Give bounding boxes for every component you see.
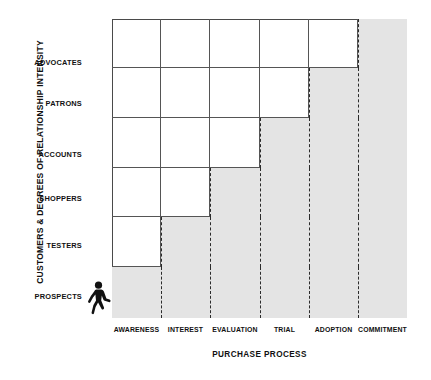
x-label-group: AWARENESSINTERESTEVALUATIONTRIALADOPTION…	[112, 324, 407, 336]
row-label-prospects: PROSPECTS	[12, 291, 82, 303]
step-cell	[112, 19, 161, 68]
row-label-group: ADVOCATESPATRONSACCOUNTSSHOPPERSTESTERSP…	[12, 0, 82, 380]
staircase-chart-figure: CUSTOMERS & DEGREES OF RELATIONSHIP INTE…	[0, 0, 431, 380]
x-label-commitment: COMMITMENT	[358, 324, 407, 336]
column-divider	[309, 217, 310, 267]
shade-block-advocates	[358, 19, 407, 68]
row-label-patrons: PATRONS	[12, 98, 82, 110]
column-divider	[309, 68, 310, 118]
x-axis-title: PURCHASE PROCESS	[112, 348, 407, 362]
step-cell	[112, 168, 161, 217]
row-label-shoppers: SHOPPERS	[12, 193, 82, 205]
x-label-adoption: ADOPTION	[309, 324, 358, 336]
column-divider	[309, 267, 310, 318]
column-divider	[358, 168, 359, 217]
step-cell	[309, 19, 358, 68]
column-divider	[358, 118, 359, 168]
x-label-interest: INTEREST	[161, 324, 210, 336]
row-label-testers: TESTERS	[12, 240, 82, 252]
shade-block-testers	[161, 217, 407, 267]
step-cell	[260, 68, 309, 118]
column-divider	[358, 19, 359, 68]
column-divider	[260, 217, 261, 267]
step-cell	[210, 118, 260, 168]
step-cell	[161, 19, 210, 68]
walking-person-icon	[85, 281, 111, 315]
column-divider	[260, 118, 261, 168]
step-cell	[112, 68, 161, 118]
step-cell	[112, 118, 161, 168]
step-cell	[161, 68, 210, 118]
step-cell	[112, 217, 161, 267]
column-divider	[309, 168, 310, 217]
step-cell	[161, 168, 210, 217]
shaded-region	[112, 19, 407, 318]
row-label-advocates: ADVOCATES	[12, 57, 82, 69]
column-divider	[161, 217, 162, 267]
x-label-trial: TRIAL	[260, 324, 309, 336]
column-divider	[358, 267, 359, 318]
step-cell	[210, 68, 260, 118]
column-divider	[358, 68, 359, 118]
column-divider	[309, 118, 310, 168]
column-divider	[260, 168, 261, 217]
row-label-accounts: ACCOUNTS	[12, 149, 82, 161]
plot-area	[112, 19, 407, 318]
column-divider	[210, 267, 211, 318]
column-divider	[210, 168, 211, 217]
step-cell	[260, 19, 309, 68]
step-cell	[210, 19, 260, 68]
x-label-awareness: AWARENESS	[112, 324, 161, 336]
column-divider	[358, 217, 359, 267]
column-divider	[260, 267, 261, 318]
column-divider	[161, 267, 162, 318]
column-divider	[210, 217, 211, 267]
shade-block-accounts	[260, 118, 407, 168]
step-cell	[161, 118, 210, 168]
x-label-evaluation: EVALUATION	[210, 324, 260, 336]
